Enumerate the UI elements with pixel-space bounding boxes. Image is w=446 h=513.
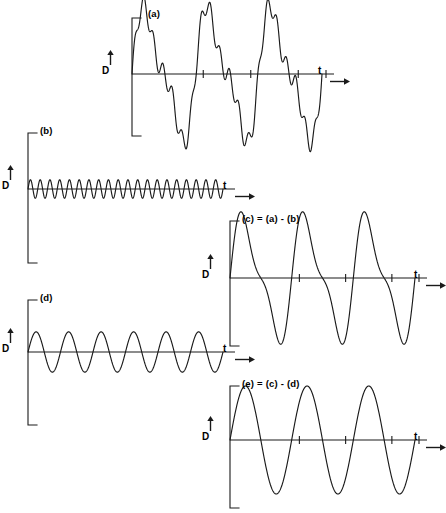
right-arrow-icon [426, 276, 446, 294]
vertical-axis-bracket [132, 18, 141, 136]
panel-plot-a [118, 8, 348, 138]
right-arrow-icon [426, 438, 446, 456]
x-axis-label-b: t [223, 181, 226, 191]
panel-e: (e) = (c) - (d)Dt [218, 378, 443, 510]
x-axis-label-c: t [414, 270, 417, 280]
up-arrow-icon [6, 328, 15, 347]
panel-label-c: (c) = (a) - (b) [242, 213, 300, 224]
up-arrow-icon [106, 50, 115, 69]
right-arrow-icon [330, 72, 350, 90]
panel-d: (d)Dt [18, 292, 248, 427]
panel-c: (c) = (a) - (b)Dt [218, 213, 443, 348]
x-axis-label-e: t [414, 432, 417, 442]
right-arrow-icon [235, 187, 255, 205]
vertical-axis-bracket [28, 300, 37, 425]
panel-label-e: (e) = (c) - (d) [242, 378, 300, 389]
panel-plot-e [218, 378, 443, 510]
waveform-trace-b [28, 180, 223, 199]
up-arrow-icon [206, 254, 215, 273]
panel-label-b: (b) [40, 125, 53, 136]
x-axis-label-d: t [223, 344, 226, 354]
up-arrow-icon [6, 165, 15, 184]
right-arrow-icon [235, 350, 255, 368]
panel-plot-d [18, 292, 248, 427]
up-arrow-icon [206, 416, 215, 435]
panel-label-a: (a) [148, 8, 160, 19]
panel-label-d: (d) [40, 292, 53, 303]
panel-b: (b)Dt [18, 125, 248, 265]
panel-a: (a)Dt [118, 8, 348, 138]
panel-plot-c [218, 213, 443, 348]
x-axis-label-a: t [318, 66, 321, 76]
panel-plot-b [18, 125, 248, 265]
